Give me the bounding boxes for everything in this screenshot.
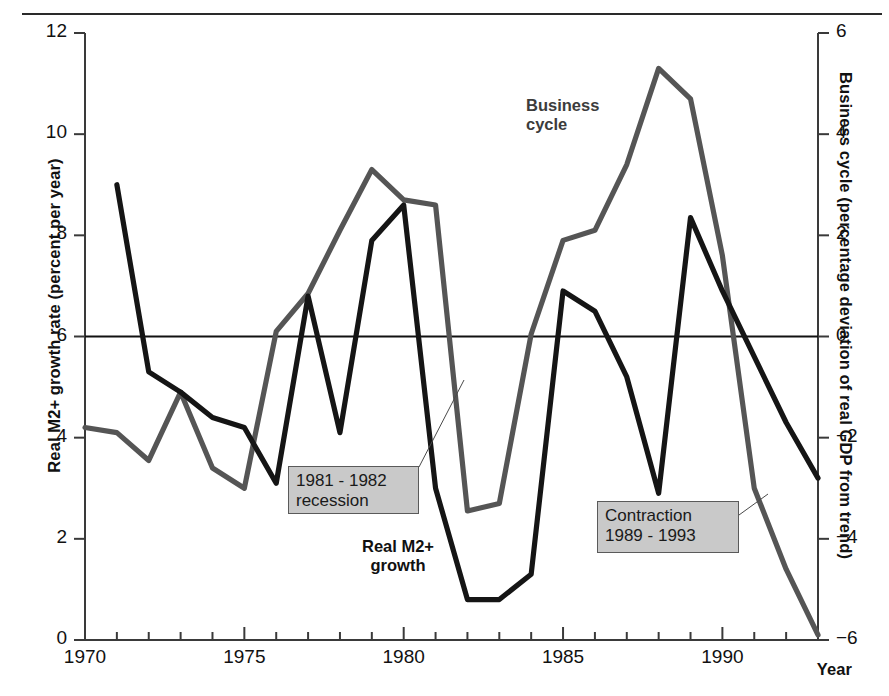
- right-tick-label: −2: [836, 425, 882, 447]
- contraction-callout: Contraction 1989 - 1993: [597, 501, 739, 553]
- left-axis-ticks: [74, 33, 85, 640]
- real-m2-label-line1: Real M2+: [362, 537, 434, 555]
- x-axis-ticks: [85, 627, 818, 640]
- business-cycle-series-label: Business cycle: [526, 96, 599, 134]
- right-tick-label: −6: [836, 627, 882, 649]
- business-cycle-label-line2: cycle: [526, 115, 567, 133]
- recession-callout: 1981 - 1982 recession: [288, 466, 419, 514]
- right-axis-ticks: [818, 33, 829, 640]
- chart-plot-area: [0, 0, 889, 696]
- left-tick-label: 2: [27, 526, 67, 548]
- business-cycle-label-line1: Business: [526, 96, 599, 114]
- left-tick-label: 6: [27, 324, 67, 346]
- x-tick-label: 1970: [45, 646, 125, 668]
- x-tick-label: 1985: [523, 646, 603, 668]
- left-tick-label: 8: [27, 222, 67, 244]
- recession-callout-line2: recession: [296, 491, 369, 510]
- chart-figure: Real M2+ growth rate (percent per year) …: [0, 0, 889, 696]
- right-tick-label: 2: [836, 222, 882, 244]
- right-tick-label: 0: [836, 324, 882, 346]
- contraction-callout-line2: 1989 - 1993: [605, 526, 696, 545]
- right-tick-label: 6: [836, 20, 882, 42]
- contraction-callout-line1: Contraction: [605, 506, 692, 525]
- x-tick-label: 1975: [204, 646, 284, 668]
- real-m2-label-line2: growth: [371, 556, 426, 574]
- left-tick-label: 10: [27, 121, 67, 143]
- left-tick-label: 4: [27, 425, 67, 447]
- x-tick-label: 1990: [682, 646, 762, 668]
- x-tick-label: 1980: [364, 646, 444, 668]
- right-tick-label: 4: [836, 121, 882, 143]
- left-tick-label: 12: [27, 20, 67, 42]
- real-m2-series-label: Real M2+ growth: [346, 537, 450, 575]
- right-tick-label: −4: [836, 526, 882, 548]
- recession-callout-line1: 1981 - 1982: [296, 471, 387, 490]
